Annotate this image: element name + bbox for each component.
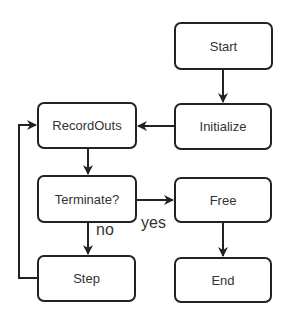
node-step-label: Step <box>73 271 100 286</box>
node-start-label: Start <box>210 39 237 54</box>
edge-label-no: no <box>96 222 114 238</box>
node-terminate-label: Terminate? <box>55 192 119 207</box>
node-recordouts[interactable]: RecordOuts <box>37 102 137 149</box>
node-recordouts-label: RecordOuts <box>52 118 121 133</box>
edge-label-yes: yes <box>141 215 166 231</box>
node-start[interactable]: Start <box>174 22 273 70</box>
node-free[interactable]: Free <box>174 177 272 223</box>
node-end-label: End <box>211 273 234 288</box>
edge-step-recordouts-loop <box>19 125 37 278</box>
node-step[interactable]: Step <box>37 255 136 302</box>
node-initialize[interactable]: Initialize <box>174 103 272 150</box>
node-end[interactable]: End <box>174 257 272 303</box>
node-free-label: Free <box>210 193 237 208</box>
node-initialize-label: Initialize <box>200 119 247 134</box>
node-terminate[interactable]: Terminate? <box>37 175 137 223</box>
